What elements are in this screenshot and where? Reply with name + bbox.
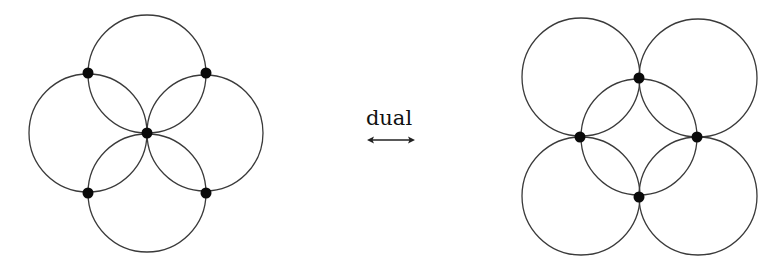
right-circle-graph xyxy=(522,18,757,255)
right-vertex-3 xyxy=(692,132,703,143)
left-vertex-3 xyxy=(142,128,153,139)
right-vertex-2 xyxy=(575,132,586,143)
right-circle-5 xyxy=(639,137,757,255)
left-circle-3 xyxy=(147,75,263,191)
dual-relation: dual xyxy=(366,106,415,144)
left-circle-1 xyxy=(88,15,206,133)
left-vertex-5 xyxy=(201,188,212,199)
left-circle-2 xyxy=(29,74,147,192)
double-headed-arrow-icon xyxy=(367,137,415,144)
right-circle-2 xyxy=(639,19,757,137)
right-circle-4 xyxy=(522,137,640,255)
right-vertex-4 xyxy=(634,192,645,203)
dual-graph-diagram: dual xyxy=(0,0,760,269)
left-circle-graph xyxy=(29,15,263,252)
left-vertex-2 xyxy=(201,68,212,79)
dual-label: dual xyxy=(366,106,412,130)
right-circle-3 xyxy=(581,79,697,195)
right-circle-1 xyxy=(522,18,640,136)
left-circle-4 xyxy=(88,134,206,252)
left-vertex-4 xyxy=(83,188,94,199)
right-vertex-1 xyxy=(634,73,645,84)
left-vertex-1 xyxy=(83,68,94,79)
